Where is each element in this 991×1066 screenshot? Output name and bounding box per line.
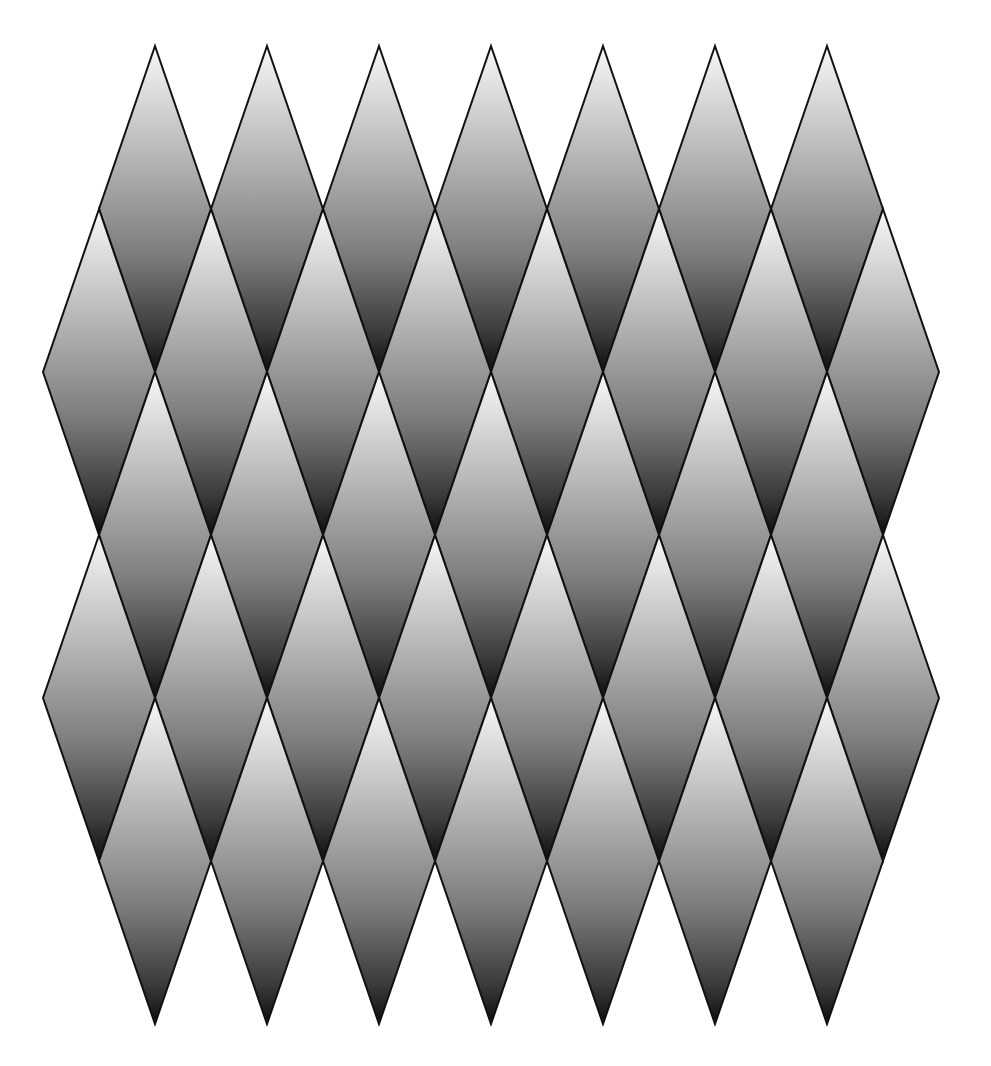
diamond-pattern (0, 0, 991, 1066)
diamond-grid (43, 46, 939, 1024)
